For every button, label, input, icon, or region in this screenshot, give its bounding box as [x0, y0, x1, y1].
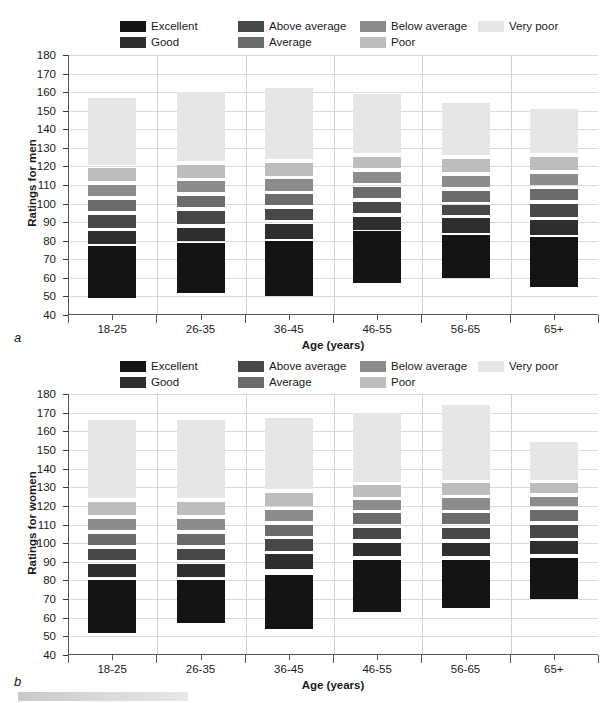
y-tick-mark — [63, 241, 68, 242]
y-tick-label: 150 — [20, 445, 56, 455]
bar-segment-average — [265, 525, 313, 536]
bar-segment-good — [177, 564, 225, 577]
bar-segment-average — [265, 194, 313, 205]
x-tick-mark — [289, 655, 290, 660]
x-gridline — [422, 55, 423, 314]
y-tick-label: 80 — [20, 575, 56, 585]
bar-segment-poor — [177, 502, 225, 515]
bar-segment-very-poor — [177, 420, 225, 498]
bar-segment-above-average — [177, 549, 225, 560]
y-tick-label: 50 — [20, 291, 56, 301]
bar-segment-poor — [530, 157, 578, 170]
bar-segment-poor — [530, 483, 578, 492]
bar-segment-good — [442, 218, 490, 233]
y-tick-label: 140 — [20, 464, 56, 474]
x-tick-mark — [466, 655, 467, 660]
x-boundary-tick-mark — [421, 315, 422, 323]
y-tick-mark — [63, 278, 68, 279]
x-boundary-tick-mark — [421, 655, 422, 663]
y-tick-mark — [63, 222, 68, 223]
x-gridline — [157, 394, 158, 654]
bar-group-46-55 — [353, 394, 401, 655]
bar-segment-average — [530, 510, 578, 521]
bar-group-36-45 — [265, 55, 313, 315]
y-tick-label: 70 — [20, 594, 56, 604]
y-tick-label: 130 — [20, 143, 56, 153]
y-tick-label: 160 — [20, 87, 56, 97]
y-tick-mark — [63, 636, 68, 637]
x-boundary-tick-mark — [333, 655, 334, 663]
x-tick-mark — [112, 315, 113, 320]
bar-group-18-25 — [88, 394, 136, 655]
bar-segment-above-average — [177, 211, 225, 224]
x-boundary-tick-mark — [598, 655, 599, 663]
x-tick-mark — [112, 655, 113, 660]
bar-segment-average — [353, 513, 401, 524]
bar-segment-below-average — [177, 181, 225, 192]
bar-segment-excellent — [88, 246, 136, 298]
bar-segment-good — [177, 228, 225, 241]
x-boundary-tick-mark — [156, 315, 157, 323]
y-tick-label: 160 — [20, 426, 56, 436]
y-tick-mark — [63, 129, 68, 130]
x-tick-mark — [377, 655, 378, 660]
bar-segment-below-average — [530, 174, 578, 185]
plot-area — [68, 394, 598, 655]
bar-segment-poor — [265, 493, 313, 506]
x-tick-label: 65+ — [514, 323, 594, 335]
bar-segment-poor — [265, 163, 313, 176]
bar-segment-excellent — [442, 235, 490, 278]
y-tick-mark — [63, 469, 68, 470]
y-tick-mark — [63, 296, 68, 297]
y-tick-label: 100 — [20, 199, 56, 209]
y-tick-mark — [63, 506, 68, 507]
bar-segment-below-average — [442, 176, 490, 187]
bar-segment-above-average — [530, 525, 578, 538]
x-tick-label: 36-45 — [249, 663, 329, 675]
bar-segment-excellent — [88, 580, 136, 632]
bar-group-56-65 — [442, 55, 490, 315]
y-tick-mark — [63, 148, 68, 149]
bar-group-26-35 — [177, 394, 225, 655]
x-boundary-tick-mark — [245, 655, 246, 663]
x-tick-mark — [201, 315, 202, 320]
x-tick-label: 46-55 — [337, 663, 417, 675]
y-tick-mark — [63, 55, 68, 56]
bar-segment-good — [88, 231, 136, 244]
y-tick-label: 110 — [20, 520, 56, 530]
x-gridline — [157, 55, 158, 314]
bar-segment-very-poor — [88, 420, 136, 498]
y-tick-mark — [63, 487, 68, 488]
bar-group-56-65 — [442, 394, 490, 655]
bar-segment-good — [530, 220, 578, 235]
x-gridline — [511, 394, 512, 654]
bar-segment-very-poor — [177, 92, 225, 161]
bar-segment-poor — [442, 483, 490, 494]
chart-panel-men: ExcellentGoodAbove averageAverageBelow a… — [0, 0, 610, 352]
plot-women: Ratings for women40506070809010011012013… — [0, 340, 610, 703]
y-tick-mark — [63, 111, 68, 112]
y-tick-mark — [63, 185, 68, 186]
y-tick-label: 130 — [20, 482, 56, 492]
y-tick-mark — [63, 166, 68, 167]
y-tick-label: 60 — [20, 613, 56, 623]
bar-group-65+ — [530, 55, 578, 315]
bar-group-26-35 — [177, 55, 225, 315]
x-gridline — [334, 55, 335, 314]
y-tick-mark — [63, 413, 68, 414]
y-tick-mark — [63, 74, 68, 75]
bar-segment-poor — [353, 485, 401, 496]
x-boundary-tick-mark — [510, 315, 511, 323]
bar-segment-above-average — [265, 209, 313, 220]
bar-segment-excellent — [177, 580, 225, 623]
x-boundary-tick-mark — [598, 315, 599, 323]
y-tick-mark — [63, 618, 68, 619]
x-tick-mark — [554, 655, 555, 660]
bar-segment-average — [88, 534, 136, 545]
y-tick-label: 140 — [20, 124, 56, 134]
x-tick-label: 26-35 — [161, 323, 241, 335]
y-tick-mark — [63, 543, 68, 544]
bar-segment-above-average — [442, 205, 490, 214]
x-tick-mark — [201, 655, 202, 660]
bar-segment-good — [265, 224, 313, 239]
